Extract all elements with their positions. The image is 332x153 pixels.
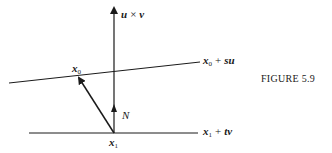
figure-caption: FIGURE 5.9 bbox=[261, 73, 315, 84]
label-x1-plus-tv: x1+tv bbox=[203, 126, 232, 139]
label-u-cross-v: u×v bbox=[121, 9, 144, 20]
label-point-x1: x1 bbox=[109, 137, 118, 150]
label-point-x0: x0 bbox=[72, 63, 81, 76]
normal-arrowhead-icon bbox=[111, 104, 117, 112]
label-x0-plus-su: x0+su bbox=[203, 55, 235, 68]
line-x0-su bbox=[9, 62, 200, 83]
label-normal-n: N bbox=[122, 110, 129, 121]
vector-x1-to-x0 bbox=[79, 78, 114, 133]
